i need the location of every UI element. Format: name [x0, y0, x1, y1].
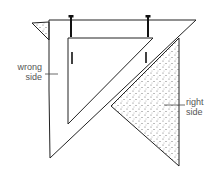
- pin-left: [69, 15, 74, 37]
- right-side-label: right side: [186, 97, 216, 117]
- folded-fabric-diagram: [0, 0, 220, 178]
- right-side-stippled-region: [111, 38, 179, 166]
- pin-tail-marks: [72, 52, 146, 64]
- top-left-folded-corner: [32, 22, 49, 40]
- pin-right: [146, 15, 151, 37]
- wrong-side-label-text: wrong side: [8, 62, 42, 82]
- right-side-label-text: right side: [186, 97, 216, 117]
- wrong-side-label: wrong side: [8, 62, 42, 82]
